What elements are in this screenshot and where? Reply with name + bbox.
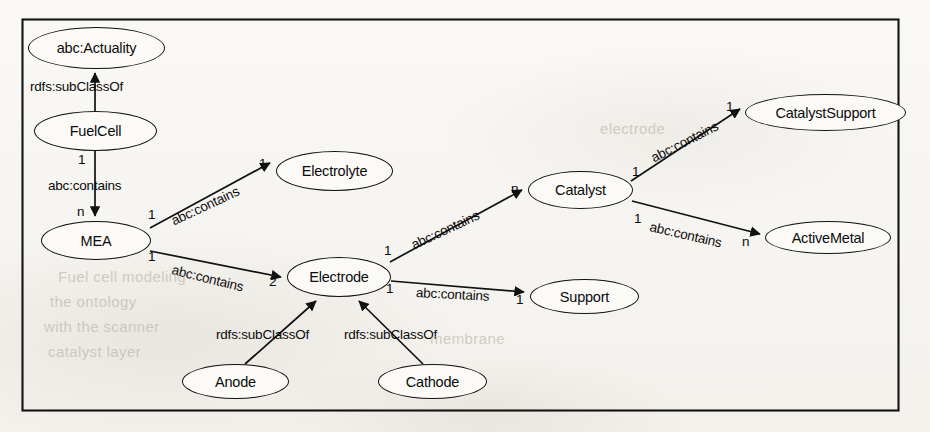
- node-anode[interactable]: Anode: [182, 364, 289, 399]
- node-cathode[interactable]: Cathode: [378, 364, 487, 399]
- node-mea[interactable]: MEA: [41, 221, 151, 260]
- node-label: FuelCell: [70, 123, 122, 139]
- ontology-diagram-canvas: abc:Actuality FuelCell MEA Electrolyte E…: [0, 0, 930, 432]
- cardinality-mea-out-electrode: 1: [148, 249, 156, 264]
- node-label: Anode: [215, 374, 256, 390]
- cardinality-catalyst-out-catalystsupport: 1: [632, 164, 640, 179]
- node-label: ActiveMetal: [792, 230, 865, 246]
- node-label: Electrolyte: [302, 163, 368, 179]
- node-support[interactable]: Support: [530, 279, 639, 314]
- node-catalystsupport[interactable]: CatalystSupport: [745, 94, 906, 131]
- node-label: MEA: [81, 233, 112, 249]
- edge-label-subclassof-fuelcell: rdfs:subClassOf: [30, 79, 123, 94]
- node-label: abc:Actuality: [57, 40, 137, 56]
- node-label: Electrode: [309, 269, 368, 285]
- node-electrode[interactable]: Electrode: [287, 257, 391, 297]
- node-fuelcell[interactable]: FuelCell: [34, 111, 157, 151]
- cardinality-activemetal-in: n: [742, 234, 750, 249]
- cardinality-support-in: 1: [516, 292, 524, 307]
- cardinality-catalyst-in: n: [511, 181, 519, 196]
- cardinality-electrode-out-support: 1: [386, 281, 394, 296]
- node-activemetal[interactable]: ActiveMetal: [765, 221, 891, 254]
- edge-label-subclassof-anode: rdfs:subClassOf: [216, 327, 309, 342]
- edge-label-subclassof-cathode: rdfs:subClassOf: [344, 327, 437, 342]
- cardinality-catalystsupport-in: 1: [726, 99, 734, 114]
- node-catalyst[interactable]: Catalyst: [528, 171, 633, 209]
- node-label: CatalystSupport: [775, 105, 875, 121]
- node-electrolyte[interactable]: Electrolyte: [276, 151, 393, 191]
- edge-label-contains-mea: abc:contains: [48, 178, 121, 193]
- node-label: Cathode: [406, 374, 459, 390]
- node-label: Support: [560, 289, 609, 305]
- cardinality-electrode-in: 2: [269, 274, 277, 289]
- cardinality-electrode-out-catalyst: 1: [384, 243, 392, 258]
- node-label: Catalyst: [555, 182, 606, 198]
- cardinality-mea-in: n: [77, 204, 85, 219]
- cardinality-mea-out-electrolyte: 1: [148, 207, 156, 222]
- cardinality-fuelcell-out: 1: [78, 152, 86, 167]
- cardinality-electrolyte-in: 1: [259, 156, 267, 171]
- node-abc-actuality[interactable]: abc:Actuality: [28, 27, 165, 69]
- cardinality-catalyst-out-activemetal: 1: [634, 211, 642, 226]
